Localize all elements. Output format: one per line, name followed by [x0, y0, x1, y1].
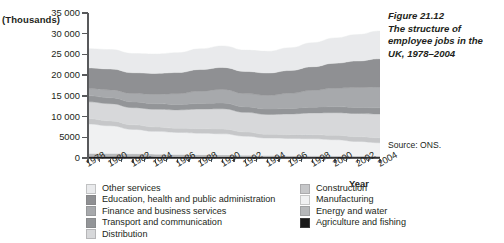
legend-item-label: Energy and water — [316, 206, 387, 217]
legend-column-left: Other servicesEducation, health and publ… — [86, 183, 275, 240]
legend-swatch-icon — [300, 184, 310, 194]
figure-caption: Figure 21.12 The structure of employee j… — [388, 10, 502, 60]
y-axis-tick-label: 5000 — [32, 131, 80, 142]
y-axis-tick — [82, 137, 88, 138]
figure-title: The structure of employee jobs in the UK… — [388, 23, 502, 61]
legend-swatch-icon — [86, 195, 96, 205]
legend-item[interactable]: Other services — [86, 183, 275, 194]
legend-swatch-icon — [300, 218, 310, 228]
y-axis-tick — [82, 12, 88, 13]
legend-item-label: Manufacturing — [316, 194, 374, 205]
y-axis-tick-label: 30 000 — [32, 28, 80, 39]
legend-swatch-icon — [300, 195, 310, 205]
y-axis-tick-label: 15 000 — [32, 90, 80, 101]
legend-item[interactable]: Energy and water — [300, 206, 406, 217]
legend-swatch-icon — [86, 229, 96, 239]
legend-swatch-icon — [86, 218, 96, 228]
legend-item-label: Agriculture and fishing — [316, 217, 406, 228]
legend-item[interactable]: Transport and communication — [86, 217, 275, 228]
legend-item-label: Transport and communication — [102, 217, 222, 228]
figure-source: Source: ONS. — [388, 140, 441, 150]
y-axis-tick-label: 25 000 — [32, 48, 80, 59]
y-axis-tick-label: 20 000 — [32, 69, 80, 80]
y-axis-tick — [82, 54, 88, 55]
y-axis-tick — [82, 74, 88, 75]
legend-swatch-icon — [86, 184, 96, 194]
area-chart-svg — [88, 13, 380, 158]
legend-item-label: Education, health and public administrat… — [102, 194, 275, 205]
legend-item[interactable]: Agriculture and fishing — [300, 217, 406, 228]
legend-column-right: ConstructionManufacturingEnergy and wate… — [300, 183, 406, 229]
legend-item-label: Finance and business services — [102, 206, 226, 217]
y-axis-tick — [82, 116, 88, 117]
legend-item[interactable]: Education, health and public administrat… — [86, 194, 275, 205]
y-axis-tick-label: 35 000 — [32, 7, 80, 18]
legend-item-label: Construction — [316, 183, 367, 194]
legend-item-label: Other services — [102, 183, 161, 194]
y-axis-tick-label: 0 — [32, 152, 80, 163]
y-axis-tick-label: 10 000 — [32, 111, 80, 122]
y-axis-tick — [82, 33, 88, 34]
y-axis-tick — [82, 95, 88, 96]
legend-item[interactable]: Distribution — [86, 229, 275, 240]
legend-item[interactable]: Construction — [300, 183, 406, 194]
legend-item[interactable]: Manufacturing — [300, 194, 406, 205]
stacked-area-plot — [88, 13, 380, 158]
figure-number: Figure 21.12 — [388, 10, 502, 23]
figure-container: (Thousands) 0500010 00015 00020 00025 00… — [0, 0, 504, 243]
legend-swatch-icon — [86, 206, 96, 216]
legend-item[interactable]: Finance and business services — [86, 206, 275, 217]
legend-item-label: Distribution — [102, 229, 148, 240]
legend-swatch-icon — [300, 206, 310, 216]
